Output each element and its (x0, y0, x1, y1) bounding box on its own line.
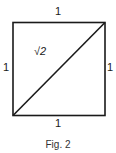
bottom-side-label: 1 (55, 118, 61, 129)
diagonal-label: √2 (34, 46, 46, 57)
square-diagram (0, 0, 116, 153)
top-side-label: 1 (55, 6, 61, 17)
left-side-label: 1 (3, 62, 9, 73)
figure-caption: Fig. 2 (0, 139, 116, 150)
right-side-label: 1 (107, 62, 113, 73)
diagonal (13, 23, 105, 116)
